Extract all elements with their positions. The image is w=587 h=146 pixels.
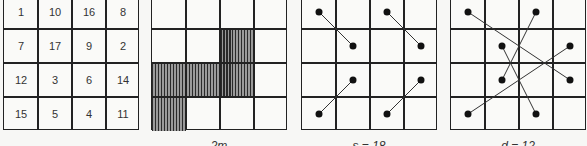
d-pairs-caption: d = 12: [450, 139, 586, 146]
pair-connector-line: [468, 46, 570, 114]
grid-line: [4, 96, 138, 98]
dot-marker: [465, 111, 472, 118]
shaded-cell: [186, 63, 220, 97]
dot-marker: [384, 111, 391, 118]
pair-connector-line: [387, 12, 421, 46]
dot-pairs-overlay: [451, 0, 587, 131]
pair-connector-line: [502, 12, 536, 80]
d-pairs-grid: [450, 0, 586, 130]
grid-cell-value: 17: [38, 29, 72, 63]
grid-line: [4, 62, 138, 64]
grid-cell-value: 15: [4, 97, 38, 131]
shaded-cell: [220, 63, 254, 97]
grid-line: [219, 0, 221, 129]
grid-line: [152, 62, 286, 64]
grid-line: [105, 0, 107, 129]
grid-cell-value: 1: [4, 0, 38, 29]
s-pairs-grid: [301, 0, 437, 130]
grid-line: [185, 0, 187, 129]
grid-cell-value: 5: [38, 97, 72, 131]
grid-cell-value: 14: [106, 63, 140, 97]
dot-marker: [418, 43, 425, 50]
pair-connector-line: [319, 12, 353, 46]
dot-marker: [567, 77, 574, 84]
number-grid-panel: 11016871792123614155411: [3, 0, 139, 130]
dot-marker: [316, 9, 323, 16]
dot-marker: [316, 111, 323, 118]
grid-line: [71, 0, 73, 129]
shaded-cell: [152, 97, 186, 131]
grid-cell-value: 7: [4, 29, 38, 63]
dot-marker: [418, 77, 425, 84]
dot-pairs-overlay: [302, 0, 438, 131]
shaded-cell: [220, 29, 254, 63]
grid-cell-value: 4: [72, 97, 106, 131]
grid-cell-value: 8: [106, 0, 140, 29]
pair-connector-line: [387, 80, 421, 114]
grid-line: [37, 0, 39, 129]
dot-marker: [350, 43, 357, 50]
grid-cell-value: 6: [72, 63, 106, 97]
grid-cell-value: 2: [106, 29, 140, 63]
d-pairs-panel: [450, 0, 586, 130]
shaded-grid-caption: 2m: [151, 139, 287, 146]
grid-line: [152, 96, 286, 98]
dot-marker: [533, 111, 540, 118]
dot-marker: [533, 9, 540, 16]
s-pairs-panel: [301, 0, 437, 130]
grid-cell-value: 10: [38, 0, 72, 29]
grid-cell-value: 9: [72, 29, 106, 63]
dot-marker: [567, 43, 574, 50]
grid-cell-value: 3: [38, 63, 72, 97]
shaded-grid-panel: [151, 0, 287, 130]
shaded-grid: [151, 0, 287, 130]
dot-marker: [465, 9, 472, 16]
grid-line: [253, 0, 255, 129]
dot-marker: [384, 9, 391, 16]
grid-cell-value: 16: [72, 0, 106, 29]
pair-connector-line: [319, 80, 353, 114]
dot-marker: [499, 43, 506, 50]
s-pairs-caption: s = 18: [301, 139, 437, 146]
grid-cell-value: 12: [4, 63, 38, 97]
shaded-cell: [152, 63, 186, 97]
grid-cell-value: 11: [106, 97, 140, 131]
dot-marker: [499, 77, 506, 84]
dot-marker: [350, 77, 357, 84]
number-grid: 11016871792123614155411: [3, 0, 139, 130]
